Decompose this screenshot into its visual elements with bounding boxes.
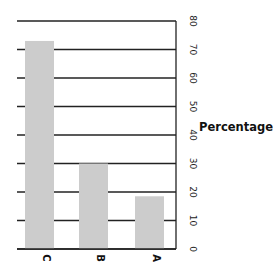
y-tick-label: 30 bbox=[188, 158, 198, 170]
bar-B bbox=[79, 164, 108, 250]
y-tick-label: 20 bbox=[188, 186, 198, 198]
y-tick-label: 0 bbox=[188, 246, 198, 252]
category-label-A: A bbox=[151, 254, 162, 262]
bar-C bbox=[25, 41, 54, 249]
y-tick-label: 50 bbox=[188, 101, 198, 113]
y-tick-label: 80 bbox=[188, 15, 198, 27]
bar-A bbox=[135, 196, 164, 249]
y-tick-label: 40 bbox=[188, 129, 198, 141]
y-tick-labels: 01020304050607080 bbox=[188, 15, 198, 252]
y-tick-label: 70 bbox=[188, 44, 198, 56]
bars bbox=[25, 41, 164, 249]
x-category-labels: CBA bbox=[41, 254, 162, 262]
y-tick-label: 10 bbox=[188, 215, 198, 227]
category-label-B: B bbox=[95, 254, 106, 262]
y-axis-label: Percentage bbox=[199, 120, 273, 134]
y-tick-label: 60 bbox=[188, 72, 198, 84]
category-label-C: C bbox=[41, 254, 52, 261]
